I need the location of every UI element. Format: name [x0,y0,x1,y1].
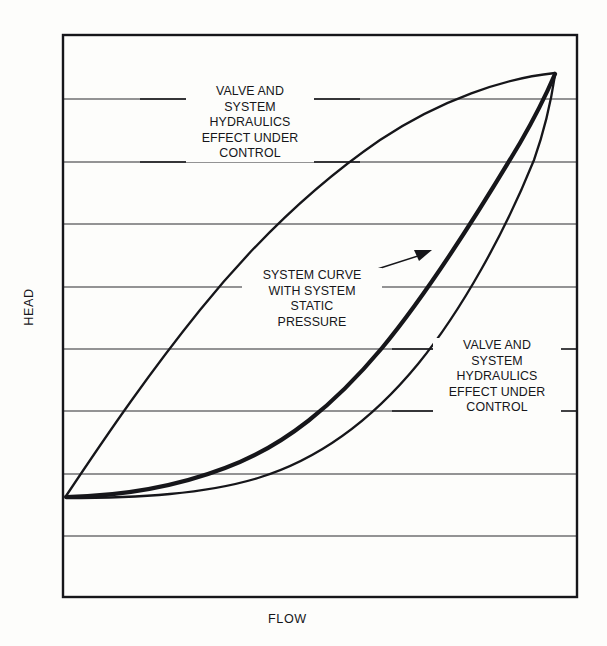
x-axis-label: FLOW [268,612,307,626]
figure-background [0,0,607,646]
figure-root: VALVE AND SYSTEM HYDRAULICS EFFECT UNDER… [0,0,607,646]
y-axis-label: HEAD [22,272,36,342]
system-curve-chart [0,0,607,646]
